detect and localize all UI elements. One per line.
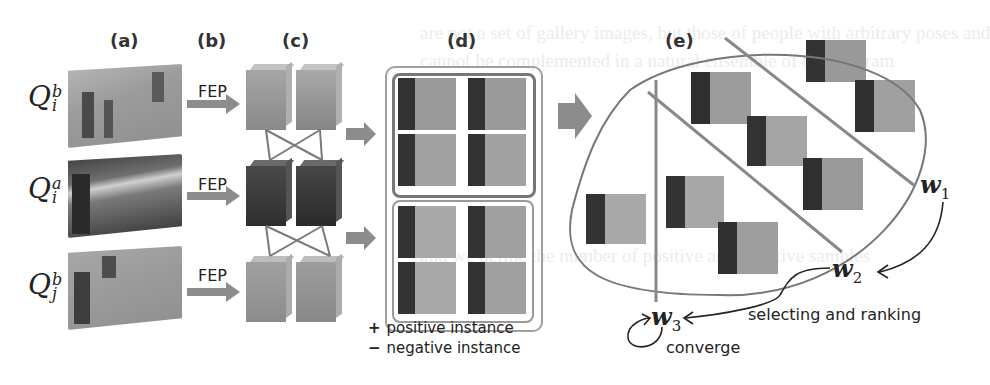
plus-icon: + (368, 319, 381, 337)
hyperplanes (648, 38, 915, 302)
selecting-ranking-caption: selecting and ranking (748, 305, 921, 324)
weight-w1: w1 (920, 170, 950, 203)
legend-positive: +positive instance (368, 319, 514, 337)
w1-to-w2-arrow (880, 202, 943, 272)
minus-icon: − (368, 339, 381, 357)
arrow-to-bags-icon (346, 122, 376, 250)
weight-w2: w2 (832, 254, 862, 287)
fep-arrow-icon (187, 94, 240, 302)
legend-negative: −negative instance (368, 339, 521, 357)
weight-w3: w3 (651, 302, 681, 335)
feature-connectors (266, 130, 330, 256)
arrow-to-space-icon (558, 93, 592, 139)
converge-caption: converge (666, 338, 740, 357)
